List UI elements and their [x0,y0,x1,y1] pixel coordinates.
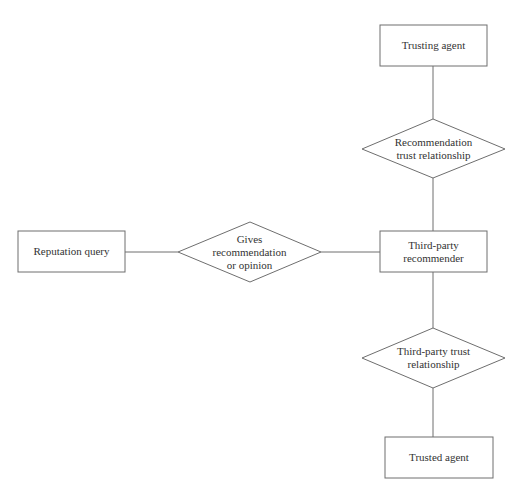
trusting-agent-text: Trusting agent [402,39,465,52]
reputation-query-label: Reputation query [18,231,125,272]
recommendation-trust-line2: trust relationship [396,149,470,162]
recommendation-trust-line1: Recommendation [395,136,473,149]
trusted-agent-text: Trusted agent [409,451,469,464]
trusted-agent-label: Trusted agent [385,437,493,478]
recommender-line1: Third-party [408,239,459,252]
gives-line3: or opinion [227,259,273,272]
gives-line2: recommendation [213,246,287,259]
recommendation-trust-label: Recommendation trust relationship [362,119,505,178]
third-party-trust-line1: Third-party trust [397,345,470,358]
third-party-recommender-label: Third-party recommender [380,231,487,272]
third-party-trust-line2: relationship [408,358,460,371]
third-party-trust-label: Third-party trust relationship [362,328,505,388]
recommender-line2: recommender [403,252,463,265]
trusting-agent-label: Trusting agent [380,25,487,66]
reputation-query-text: Reputation query [33,245,109,258]
gives-recommendation-label: Gives recommendation or opinion [178,222,321,282]
gives-line1: Gives [237,233,263,246]
